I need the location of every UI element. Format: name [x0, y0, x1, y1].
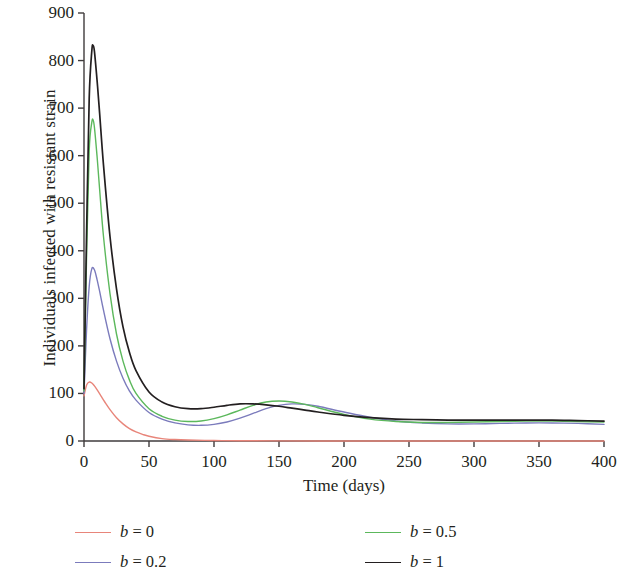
x-tick-label: 300 [444, 453, 504, 470]
series-line-1 [84, 45, 604, 421]
legend-swatch-b-0 [75, 532, 111, 533]
legend-label-b-1: b = 1 [410, 552, 444, 571]
chart-legend: b = 0 b = 0.2 b = 0.5 b = 1 [0, 508, 632, 570]
y-tick-label: 700 [28, 99, 74, 116]
y-tick-label: 300 [28, 289, 74, 306]
x-tick-label: 100 [184, 453, 244, 470]
x-tick-label: 200 [314, 453, 374, 470]
legend-item-b-02: b = 0.2 [75, 552, 166, 571]
y-tick-label: 500 [28, 194, 74, 211]
x-tick-label: 400 [574, 453, 632, 470]
legend-item-b-05: b = 0.5 [365, 522, 456, 542]
y-tick-label: 800 [28, 52, 74, 69]
x-tick-label: 350 [509, 453, 569, 470]
legend-swatch-b-05 [365, 532, 401, 533]
y-tick-label: 100 [28, 384, 74, 401]
y-tick-label: 600 [28, 147, 74, 164]
legend-label-b-05: b = 0.5 [410, 522, 456, 542]
legend-item-b-1: b = 1 [365, 552, 444, 571]
x-axis-title: Time (days) [84, 476, 604, 496]
y-tick-label: 200 [28, 337, 74, 354]
x-tick-label: 0 [54, 453, 114, 470]
x-tick-label: 150 [249, 453, 309, 470]
chart-figure: Individuals infected with resistant stra… [0, 0, 632, 571]
y-tick-label: 0 [28, 432, 74, 449]
legend-swatch-b-1 [365, 562, 401, 563]
y-tick-label: 900 [28, 4, 74, 21]
legend-label-b-02: b = 0.2 [120, 552, 166, 571]
series-line-0-5 [84, 119, 604, 423]
x-tick-label: 50 [119, 453, 179, 470]
x-tick-label: 250 [379, 453, 439, 470]
legend-swatch-b-02 [75, 562, 111, 563]
y-tick-label: 400 [28, 242, 74, 259]
legend-item-b-0: b = 0 [75, 522, 154, 542]
legend-label-b-0: b = 0 [120, 522, 154, 542]
